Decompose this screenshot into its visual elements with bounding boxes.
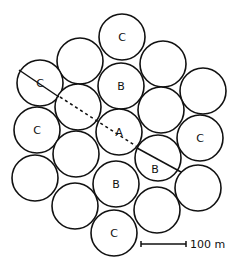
circle-blank xyxy=(52,183,98,229)
circle-blank xyxy=(12,155,58,201)
circle-packing-diagram: CCBCACBCB 100 m xyxy=(0,0,237,265)
circle-blank xyxy=(55,84,101,130)
circle-label: B xyxy=(112,178,120,191)
circle-blank xyxy=(57,38,103,84)
circle-label: C xyxy=(36,77,44,90)
circle-blank xyxy=(140,41,186,87)
scale-bar: 100 m xyxy=(141,238,225,251)
circle-label: C xyxy=(196,132,204,145)
circle-blank xyxy=(53,131,99,177)
circle-blank xyxy=(175,165,221,211)
circle-label: B xyxy=(117,80,125,93)
circle-label: C xyxy=(110,227,118,240)
scale-bar-label: 100 m xyxy=(190,238,225,251)
circle-label: C xyxy=(118,31,126,44)
circle-blank xyxy=(134,187,180,233)
circle-blank xyxy=(180,68,226,114)
circle-label: C xyxy=(33,124,41,137)
circle-blank xyxy=(138,87,184,133)
circle-label: B xyxy=(151,163,159,176)
circle-label: A xyxy=(115,126,123,139)
